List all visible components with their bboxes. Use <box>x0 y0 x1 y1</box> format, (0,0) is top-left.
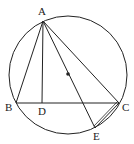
label-d: D <box>38 105 46 117</box>
label-c: C <box>122 101 129 113</box>
segment-ad <box>42 21 43 103</box>
geometry-figure: A B D C E <box>0 0 134 144</box>
label-b: B <box>5 101 12 113</box>
center-point <box>66 72 70 76</box>
segment-ab <box>16 21 43 103</box>
label-e: E <box>93 130 100 142</box>
label-a: A <box>38 5 46 17</box>
segment-ac <box>43 21 119 103</box>
segment-ce-2 <box>94 101 118 126</box>
segment-ce-1 <box>95 103 119 128</box>
